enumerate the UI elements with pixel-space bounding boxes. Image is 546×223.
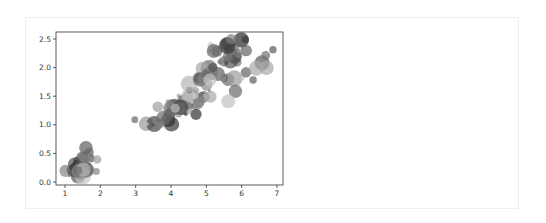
data-point (220, 75, 227, 82)
x-tick-label: 3 (133, 189, 138, 198)
data-point (249, 76, 256, 83)
data-point (217, 59, 222, 64)
data-point (158, 121, 165, 128)
data-point (190, 100, 193, 103)
data-point (93, 155, 101, 163)
x-tick-label: 6 (239, 189, 244, 198)
data-point (145, 122, 149, 126)
data-point (74, 167, 82, 175)
data-point (203, 74, 216, 87)
data-point (171, 104, 180, 113)
data-point (226, 34, 236, 44)
y-tick-label: 0.5 (39, 149, 51, 158)
y-tick-label: 0.0 (39, 178, 51, 187)
data-point (261, 51, 270, 60)
data-point (240, 45, 252, 57)
data-point (221, 94, 235, 108)
data-point (131, 116, 138, 123)
data-point (269, 46, 276, 53)
x-tick-label: 2 (98, 189, 103, 198)
y-axis: 0.00.51.01.52.02.5 (39, 35, 56, 187)
scatter-chart: 1234567 0.00.51.01.52.02.5 (0, 0, 546, 223)
x-axis: 1234567 (63, 185, 280, 198)
data-point (93, 168, 100, 175)
data-point (237, 49, 241, 53)
data-point (218, 48, 221, 51)
y-tick-label: 1.5 (39, 92, 51, 101)
data-point (192, 93, 198, 99)
data-point (208, 63, 217, 72)
data-point (190, 109, 201, 120)
y-tick-label: 2.5 (39, 35, 51, 44)
points-layer (59, 32, 276, 184)
data-point (152, 101, 163, 112)
y-tick-label: 2.0 (39, 63, 51, 72)
y-tick-label: 1.0 (39, 120, 51, 129)
x-tick-label: 5 (204, 189, 209, 198)
data-point (249, 61, 264, 76)
x-tick-label: 4 (169, 189, 174, 198)
x-tick-label: 7 (275, 189, 280, 198)
x-tick-label: 1 (63, 189, 68, 198)
data-point (242, 36, 249, 43)
data-point (79, 141, 93, 155)
data-point (205, 91, 217, 103)
data-point (226, 70, 242, 86)
data-point (225, 61, 228, 64)
